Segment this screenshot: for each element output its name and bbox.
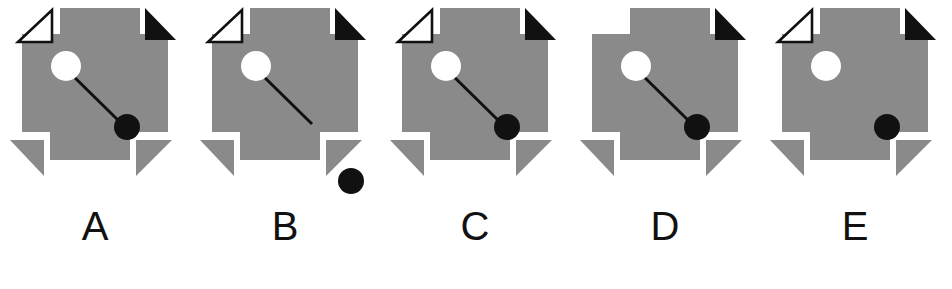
bottom-right-gray-triangle bbox=[896, 140, 932, 176]
bottom-left-gray-triangle bbox=[200, 140, 234, 176]
black-circle bbox=[494, 114, 520, 140]
figure-option-d[interactable]: D bbox=[570, 0, 760, 289]
figure-b-graphic bbox=[190, 0, 380, 200]
bottom-right-gray-triangle bbox=[706, 140, 742, 176]
top-right-black-triangle bbox=[715, 8, 746, 40]
figure-option-c[interactable]: C bbox=[380, 0, 570, 289]
figure-e-graphic bbox=[760, 0, 950, 200]
figure-label-d: D bbox=[570, 203, 760, 249]
figure-label-e: E bbox=[760, 203, 950, 249]
bottom-right-gray-triangle bbox=[136, 140, 172, 176]
figure-label-b: B bbox=[190, 203, 380, 249]
white-circle bbox=[621, 51, 651, 81]
top-left-outline-triangle bbox=[18, 10, 52, 42]
white-circle bbox=[241, 51, 271, 81]
top-left-outline-triangle bbox=[778, 10, 812, 42]
figure-option-e[interactable]: E bbox=[760, 0, 950, 289]
black-circle-detached bbox=[338, 168, 364, 194]
bottom-left-gray-triangle bbox=[580, 140, 614, 176]
top-right-black-triangle bbox=[525, 8, 556, 40]
black-circle bbox=[684, 114, 710, 140]
top-right-black-triangle bbox=[335, 8, 366, 40]
bottom-left-gray-triangle bbox=[10, 140, 44, 176]
figure-d-graphic bbox=[570, 0, 760, 200]
top-right-black-triangle bbox=[905, 8, 936, 40]
white-circle bbox=[811, 51, 841, 81]
bottom-right-gray-triangle bbox=[516, 140, 552, 176]
figure-c-graphic bbox=[380, 0, 570, 200]
bottom-left-gray-triangle bbox=[770, 140, 804, 176]
figure-option-b[interactable]: B bbox=[190, 0, 380, 289]
top-left-outline-triangle bbox=[208, 10, 242, 42]
figure-label-a: A bbox=[0, 203, 190, 249]
top-right-black-triangle bbox=[145, 8, 176, 40]
figure-label-c: C bbox=[380, 203, 570, 249]
top-left-outline-triangle bbox=[398, 10, 432, 42]
black-circle bbox=[114, 114, 140, 140]
figure-comparison-row: A B bbox=[0, 0, 952, 289]
figure-a-graphic bbox=[0, 0, 190, 200]
figure-option-a[interactable]: A bbox=[0, 0, 190, 289]
white-circle bbox=[431, 51, 461, 81]
black-circle bbox=[874, 114, 900, 140]
white-circle bbox=[51, 51, 81, 81]
bottom-left-gray-triangle bbox=[390, 140, 424, 176]
